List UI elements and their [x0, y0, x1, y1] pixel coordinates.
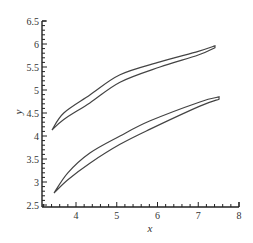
x-tick-label: 6: [155, 210, 160, 221]
y-tick-label: 4: [34, 131, 39, 142]
x-tick-label: 7: [196, 210, 201, 221]
y-tick-label: 5.5: [27, 62, 40, 73]
y-tick-label: 4.5: [27, 108, 40, 119]
profile-curve-lower-profile: [54, 97, 219, 193]
x-axis-label: x: [147, 222, 153, 234]
x-tick-label: 8: [237, 210, 242, 221]
chart: 2.533.544.555.566.545678 x y: [0, 0, 253, 243]
profile-curve-upper-profile: [52, 46, 215, 130]
y-tick-label: 5: [34, 85, 39, 96]
y-tick-label: 3.5: [27, 154, 40, 165]
y-axis-label: y: [12, 109, 24, 115]
y-tick-label: 3: [34, 177, 39, 188]
y-tick-label: 6: [34, 39, 39, 50]
plot-series: [52, 46, 219, 193]
x-tick-label: 5: [114, 210, 119, 221]
y-tick-label: 2.5: [27, 200, 40, 211]
x-tick-label: 4: [74, 210, 79, 221]
y-tick-label: 6.5: [27, 16, 40, 27]
